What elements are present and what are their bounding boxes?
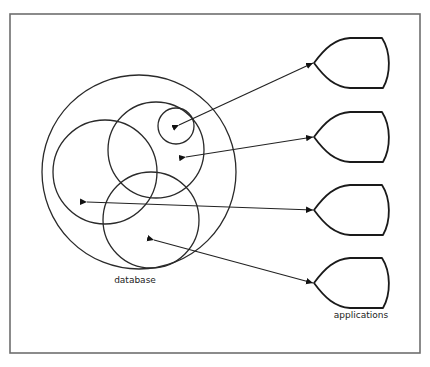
applications-label: applications	[334, 310, 389, 320]
diagram-frame	[10, 14, 420, 353]
diagram-canvas: database applications	[0, 0, 430, 367]
database-label: database	[114, 275, 156, 285]
